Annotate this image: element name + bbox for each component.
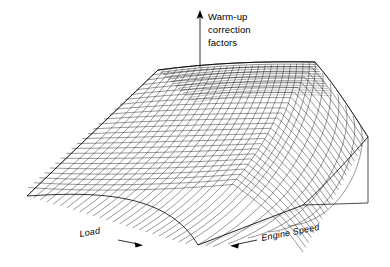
z-axis-label-line-3: factors xyxy=(208,37,237,48)
z-axis-label-line-2: correction xyxy=(208,24,251,35)
surface-plot-canvas: Warm-up correction factors Load Engine S… xyxy=(0,0,390,267)
surface-plot-figure: Warm-up correction factors Load Engine S… xyxy=(0,0,390,267)
z-axis-label-line-1: Warm-up xyxy=(208,11,247,22)
